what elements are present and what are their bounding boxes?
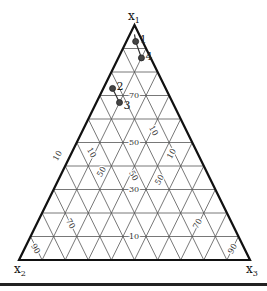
gridline-x3 [135, 143, 193, 261]
data-points: 1423 [110, 33, 153, 111]
data-point-label-3: 3 [123, 99, 130, 112]
horizontal-tick-label: 10 [129, 232, 139, 241]
horizontal-tick-label: 30 [129, 185, 139, 194]
left-tick-label: 70 [64, 217, 77, 230]
left-tick-label: 50 [127, 169, 140, 182]
vertex-label-x3: x3 [246, 262, 258, 278]
data-point-2 [110, 85, 116, 91]
right-tick-label: 70 [191, 217, 204, 230]
data-point-1 [133, 38, 139, 44]
right-tick-label: 10 [51, 149, 64, 162]
bottom-divider [0, 283, 267, 286]
left-tick-label: 10 [147, 124, 160, 137]
gridline-x2 [100, 96, 181, 261]
right-tick-label: 10 [165, 147, 178, 160]
left-tick-label: 10 [85, 146, 98, 159]
right-tick-label: 90 [226, 242, 239, 255]
ternary-diagram: 705030101050709010105050709010 1423 x1 x… [0, 0, 267, 291]
horizontal-tick-label: 50 [129, 138, 139, 147]
gridline-x2 [77, 143, 135, 261]
data-point-label-1: 1 [140, 33, 147, 46]
data-point-3 [116, 100, 122, 106]
data-point-label-2: 2 [117, 80, 124, 93]
left-tick-label: 90 [29, 242, 42, 255]
right-tick-label: 50 [153, 173, 166, 186]
data-point-4 [138, 55, 144, 61]
vertex-label-x2: x2 [14, 262, 26, 278]
data-point-label-4: 4 [145, 50, 152, 63]
vertex-label-x1: x1 [128, 9, 140, 25]
